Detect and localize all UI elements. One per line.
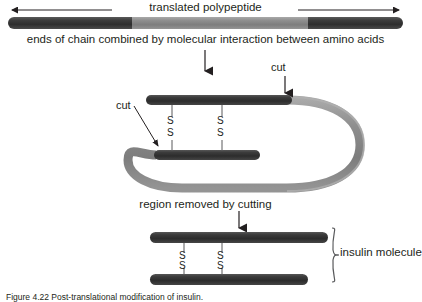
a-chain-bar	[150, 232, 328, 243]
disulfide-s-bottom-3: S	[179, 261, 186, 271]
b-chain-bar	[150, 274, 308, 285]
translated-polypeptide-bar	[8, 17, 403, 29]
central-light-segment	[132, 17, 308, 29]
disulfide-s-bottom-1: S	[167, 128, 174, 138]
cut-arrow-left	[134, 106, 158, 146]
figure-caption: Figure 4.22 Post-translational modificat…	[6, 293, 203, 302]
upper-dark-chain	[146, 95, 292, 105]
n-terminal-dark-segment	[8, 17, 132, 29]
cut-label-right: cut	[271, 62, 286, 73]
disulfide-s-bottom-2: S	[217, 128, 224, 138]
insulin-brace	[332, 228, 339, 282]
cut-label-left: cut	[116, 100, 131, 111]
c-peptide-light-loop	[128, 100, 360, 188]
ends-of-chain-label: ends of chain combined by molecular inte…	[0, 34, 411, 46]
c-peptide-loop-highlight	[287, 97, 364, 191]
region-removed-label: region removed by cutting	[0, 199, 411, 211]
disulfide-s-bottom-4: S	[217, 261, 224, 271]
c-terminal-dark-segment	[308, 17, 403, 29]
disulfide-s-top-1: S	[167, 116, 174, 126]
insulin-molecule-label: insulin molecule	[340, 247, 422, 259]
disulfide-s-top-2: S	[217, 116, 224, 126]
lower-dark-chain	[154, 150, 260, 160]
